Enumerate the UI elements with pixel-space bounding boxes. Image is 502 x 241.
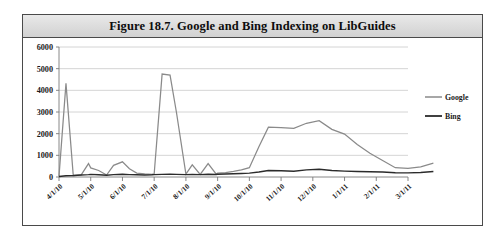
chart-plot-region: 0100020003000400050006000 4/1/105/1/106/… xyxy=(23,38,482,225)
legend-label-bing: Bing xyxy=(445,112,461,121)
series-line-bing xyxy=(59,169,433,176)
chart-gridlines xyxy=(56,47,408,177)
y-axis-tick-label: 1000 xyxy=(37,151,53,160)
chart-y-axis-labels: 0100020003000400050006000 xyxy=(37,43,53,182)
series-line-google xyxy=(59,74,433,176)
y-axis-tick-label: 0 xyxy=(49,173,53,182)
chart-x-axis xyxy=(59,47,408,181)
chart-legend: GoogleBing xyxy=(425,93,469,121)
x-axis-tick-label: 10/1/10 xyxy=(232,182,255,204)
figure-title-bar: Figure 18.7. Google and Bing Indexing on… xyxy=(23,15,482,38)
y-axis-tick-label: 3000 xyxy=(37,108,53,117)
x-axis-tick-label: 4/1/10 xyxy=(44,182,64,202)
y-axis-tick-label: 2000 xyxy=(37,130,53,139)
x-axis-tick-label: 5/1/10 xyxy=(76,182,96,202)
x-axis-tick-label: 2/1/11 xyxy=(362,182,382,201)
x-axis-tick-label: 7/1/10 xyxy=(139,182,159,202)
chart-series-group xyxy=(59,74,433,176)
y-axis-tick-label: 6000 xyxy=(37,43,53,52)
x-axis-tick-label: 1/1/11 xyxy=(330,182,350,201)
legend-label-google: Google xyxy=(445,93,469,102)
y-axis-tick-label: 5000 xyxy=(37,65,53,74)
line-chart: 0100020003000400050006000 4/1/105/1/106/… xyxy=(23,38,482,225)
x-axis-tick-label: 12/1/10 xyxy=(295,182,318,204)
figure-container: Figure 18.7. Google and Bing Indexing on… xyxy=(22,14,483,226)
page-title: Figure 18.7. Google and Bing Indexing on… xyxy=(109,19,395,34)
x-axis-tick-label: 11/1/10 xyxy=(264,182,287,204)
x-axis-tick-label: 9/1/10 xyxy=(203,182,223,202)
x-axis-tick-label: 6/1/10 xyxy=(108,182,128,202)
x-axis-tick-label: 3/1/11 xyxy=(394,182,414,201)
x-axis-tick-label: 8/1/10 xyxy=(171,182,191,202)
y-axis-tick-label: 4000 xyxy=(37,86,53,95)
chart-x-axis-labels: 4/1/105/1/106/1/107/1/108/1/109/1/1010/1… xyxy=(44,182,413,204)
